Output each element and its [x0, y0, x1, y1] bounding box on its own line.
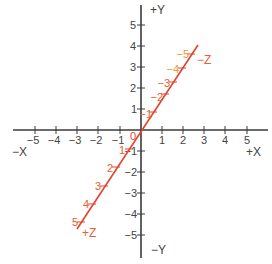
y-tick-label: −5 — [124, 229, 137, 241]
x-tick-label: 2 — [180, 134, 186, 146]
z-axis-neg-label: −Z — [197, 53, 211, 67]
x-tick-label: 4 — [222, 134, 228, 146]
x-tick-label: −2 — [90, 134, 103, 146]
x-tick-label: −3 — [69, 134, 82, 146]
z-tick-label: 3 — [95, 180, 101, 192]
x-tick-label: 3 — [201, 134, 207, 146]
z-axis-pos-label: +Z — [82, 226, 96, 240]
y-tick-label: 1 — [131, 103, 137, 115]
x-axis-pos-label: +X — [246, 145, 261, 159]
x-tick-label: −5 — [27, 134, 40, 146]
y-axis-pos-label: +Y — [150, 3, 165, 17]
x-tick-label: 1 — [159, 134, 165, 146]
y-tick-label: 3 — [130, 61, 136, 73]
z-tick-label: −1 — [139, 108, 152, 120]
z-tick-label: 1 — [119, 144, 125, 156]
z-tick-label: −4 — [166, 63, 179, 75]
z-tick-label: −3 — [157, 77, 170, 89]
y-tick-label: 4 — [130, 40, 136, 52]
coordinate-diagram: −5 −4 −3 −2 −1 1 2 3 4 5 −X +X 1 — [0, 0, 272, 264]
z-tick-label: 4 — [83, 198, 89, 210]
y-tick-label: 2 — [130, 82, 136, 94]
z-tick-label: −2 — [150, 91, 163, 103]
z-tick-label: 2 — [107, 162, 113, 174]
y-tick-label: 5 — [130, 19, 136, 31]
y-tick-label: −4 — [124, 208, 137, 220]
y-tick-label: −2 — [124, 166, 137, 178]
x-axis-neg-label: −X — [12, 145, 27, 159]
axes-svg: −5 −4 −3 −2 −1 1 2 3 4 5 −X +X 1 — [0, 0, 272, 264]
z-tick-label: 5 — [72, 216, 78, 228]
y-axis-neg-label: −Y — [151, 243, 166, 257]
z-tick-label: −5 — [176, 48, 189, 60]
x-tick-label: −4 — [48, 134, 61, 146]
y-tick-label: −3 — [124, 187, 137, 199]
